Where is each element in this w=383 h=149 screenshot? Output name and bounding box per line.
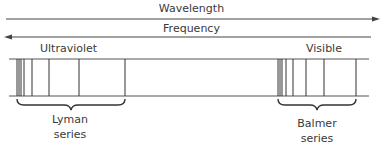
spectrum-diagram	[0, 0, 383, 149]
balmer-brace	[278, 99, 356, 110]
balmer-spectral-lines	[278, 59, 356, 96]
lyman-spectral-lines	[17, 59, 125, 96]
lyman-brace	[17, 99, 125, 110]
wavelength-arrow	[6, 17, 380, 22]
frequency-arrow	[4, 35, 371, 40]
